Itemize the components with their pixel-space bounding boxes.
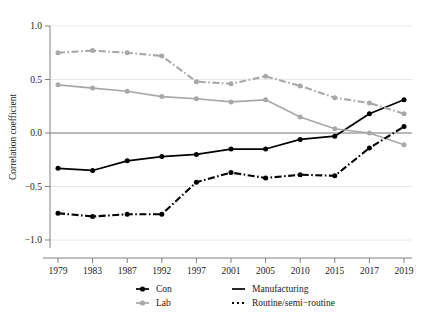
data-point bbox=[229, 170, 234, 175]
y-axis-ticks: 1.00.50.0−0.5−1.0 bbox=[25, 21, 50, 245]
data-point bbox=[125, 50, 130, 55]
data-point bbox=[229, 147, 234, 152]
data-point bbox=[332, 134, 337, 139]
legend-label: Lab bbox=[156, 298, 171, 308]
data-point bbox=[298, 114, 303, 119]
x-tick-label: 2019 bbox=[395, 266, 414, 276]
y-tick-label: −1.0 bbox=[25, 235, 42, 245]
data-point bbox=[56, 211, 61, 216]
data-point bbox=[194, 180, 199, 185]
data-point bbox=[229, 99, 234, 104]
legend-label: Con bbox=[156, 284, 172, 294]
data-series-layer bbox=[56, 48, 407, 219]
data-point bbox=[402, 111, 407, 116]
data-point bbox=[367, 145, 372, 150]
data-point bbox=[159, 212, 164, 217]
x-tick-label: 2015 bbox=[325, 266, 344, 276]
data-point bbox=[159, 154, 164, 159]
data-point bbox=[332, 95, 337, 100]
data-point bbox=[194, 79, 199, 84]
series-line bbox=[58, 100, 404, 171]
data-point bbox=[125, 212, 130, 217]
data-point bbox=[367, 131, 372, 136]
y-tick-label: 0.5 bbox=[30, 75, 42, 85]
x-tick-label: 1983 bbox=[83, 266, 102, 276]
data-point bbox=[367, 101, 372, 106]
series-line bbox=[58, 85, 404, 145]
chart-figure: 1.00.50.0−0.5−1.0 1979198319871992199720… bbox=[0, 0, 427, 321]
data-point bbox=[263, 175, 268, 180]
data-point bbox=[90, 48, 95, 53]
x-tick-label: 2010 bbox=[291, 266, 310, 276]
data-point bbox=[90, 168, 95, 173]
series-routine-semi-routine bbox=[56, 124, 407, 219]
y-tick-label: 1.0 bbox=[30, 21, 42, 31]
x-tick-label: 2017 bbox=[360, 266, 379, 276]
data-point bbox=[367, 111, 372, 116]
data-point bbox=[194, 152, 199, 157]
legend-item-manufacturing[interactable]: Manufacturing bbox=[232, 284, 309, 294]
x-tick-label: 1997 bbox=[187, 266, 206, 276]
y-tick-label: −0.5 bbox=[25, 182, 42, 192]
x-tick-label: 1987 bbox=[118, 266, 137, 276]
x-tick-label: 2001 bbox=[222, 266, 241, 276]
y-tick-label: 0.0 bbox=[30, 128, 42, 138]
data-point bbox=[332, 173, 337, 178]
y-axis-title: Correlation coefficient bbox=[8, 94, 18, 180]
data-point bbox=[332, 126, 337, 131]
data-point bbox=[90, 214, 95, 219]
x-tick-label: 1979 bbox=[49, 266, 68, 276]
data-point bbox=[159, 53, 164, 58]
data-point bbox=[56, 50, 61, 55]
data-point bbox=[125, 89, 130, 94]
data-point bbox=[263, 147, 268, 152]
data-point bbox=[402, 124, 407, 129]
correlation-line-chart: 1.00.50.0−0.5−1.0 1979198319871992199720… bbox=[0, 0, 427, 321]
legend-item-con[interactable]: Con bbox=[136, 284, 172, 294]
data-point bbox=[402, 97, 407, 102]
data-point bbox=[125, 158, 130, 163]
data-point bbox=[402, 142, 407, 147]
data-point bbox=[159, 94, 164, 99]
x-tick-label: 1992 bbox=[152, 266, 171, 276]
data-point bbox=[194, 96, 199, 101]
x-axis-ticks: 1979198319871992199720012005201020152017… bbox=[49, 258, 414, 276]
data-point bbox=[298, 83, 303, 88]
legend-label: Routine/semi−routine bbox=[252, 298, 335, 308]
data-point bbox=[56, 166, 61, 171]
legend-item-routine-semi-routine[interactable]: Routine/semi−routine bbox=[232, 298, 335, 308]
chart-legend: ConLabManufacturingRoutine/semi−routine bbox=[136, 284, 335, 308]
series-lab bbox=[56, 82, 407, 147]
data-point bbox=[298, 137, 303, 142]
data-point bbox=[229, 81, 234, 86]
data-point bbox=[56, 82, 61, 87]
legend-marker-icon bbox=[140, 300, 145, 305]
data-point bbox=[90, 86, 95, 91]
legend-label: Manufacturing bbox=[252, 284, 309, 294]
series-manufacturing bbox=[56, 48, 407, 116]
data-point bbox=[298, 172, 303, 177]
legend-marker-icon bbox=[140, 286, 145, 291]
x-tick-label: 2005 bbox=[256, 266, 275, 276]
data-point bbox=[263, 97, 268, 102]
legend-item-lab[interactable]: Lab bbox=[136, 298, 171, 308]
data-point bbox=[263, 74, 268, 79]
